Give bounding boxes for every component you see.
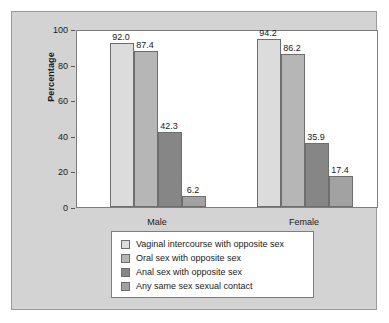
figure-canvas: Percentage 020406080100 92.087.442.36.29… xyxy=(0,0,389,323)
y-axis-title: Percentage xyxy=(46,32,60,122)
chart-panel: Percentage 020406080100 92.087.442.36.29… xyxy=(11,11,377,310)
x-axis-category-label: Female xyxy=(238,217,370,228)
legend-item: Vaginal intercourse with opposite sex xyxy=(121,237,313,251)
legend-item: Oral sex with opposite sex xyxy=(121,251,313,265)
bar xyxy=(329,176,353,207)
y-axis-tick-mark xyxy=(71,66,75,67)
bar xyxy=(182,196,206,207)
y-axis-tick-label: 80 xyxy=(40,61,68,71)
legend-item: Anal sex with opposite sex xyxy=(121,265,313,279)
bar xyxy=(305,143,329,207)
legend-item-label: Oral sex with opposite sex xyxy=(136,253,241,264)
y-axis-tick-label: 40 xyxy=(40,132,68,142)
bar-value-label: 94.2 xyxy=(252,28,284,38)
y-axis-tick-mark xyxy=(71,172,75,173)
y-axis-tick-mark xyxy=(71,30,75,31)
y-axis-tick-label: 100 xyxy=(40,25,68,35)
y-axis-tick-label: 0 xyxy=(40,203,68,213)
bar xyxy=(110,43,134,207)
y-axis-tick-mark xyxy=(71,101,75,102)
legend-swatch-icon xyxy=(121,254,130,263)
bar-value-label: 6.2 xyxy=(177,185,209,195)
legend-item-label: Anal sex with opposite sex xyxy=(136,267,242,278)
bar-value-label: 17.4 xyxy=(324,165,356,175)
bar xyxy=(158,132,182,207)
y-axis-tick-label: 20 xyxy=(40,167,68,177)
bar-value-label: 42.3 xyxy=(153,121,185,131)
bar xyxy=(281,54,305,207)
legend-item: Any same sex sexual contact xyxy=(121,279,313,293)
legend-item-label: Any same sex sexual contact xyxy=(136,281,253,292)
x-axis-category-label: Male xyxy=(91,217,223,228)
y-axis-tick-mark xyxy=(71,208,75,209)
plot-area xyxy=(76,30,378,208)
legend-item-label: Vaginal intercourse with opposite sex xyxy=(136,239,284,250)
bar-value-label: 86.2 xyxy=(276,43,308,53)
legend-swatch-icon xyxy=(121,268,130,277)
bar-value-label: 87.4 xyxy=(129,40,161,50)
legend-swatch-icon xyxy=(121,282,130,291)
y-axis-tick-label: 60 xyxy=(40,96,68,106)
legend-swatch-icon xyxy=(121,240,130,249)
chart-legend: Vaginal intercourse with opposite sexOra… xyxy=(111,231,314,298)
bar-value-label: 35.9 xyxy=(300,132,332,142)
bar xyxy=(257,39,281,207)
y-axis-tick-mark xyxy=(71,137,75,138)
